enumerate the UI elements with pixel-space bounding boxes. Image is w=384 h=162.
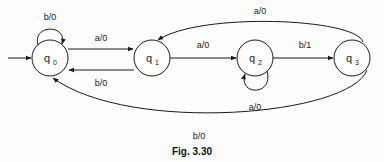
state-subscript-q2: 2 <box>258 59 262 66</box>
state-subscript-q0: 0 <box>53 59 57 66</box>
transition-q3-q1[interactable]: a/0 <box>158 6 363 42</box>
state-subscript-q1: 1 <box>155 59 159 66</box>
transition-q2-q2[interactable]: a/0 <box>244 71 268 112</box>
state-node-q3[interactable]: q 3 <box>334 40 370 76</box>
transition-label-q1-q0: b/0 <box>95 78 108 88</box>
state-label-q2: q <box>249 52 255 64</box>
state-label-q3: q <box>346 52 352 64</box>
state-label-q1: q <box>146 52 152 64</box>
figure-page: b/0 a/0 b/0 a/0 a/0 b/1 a/ <box>0 0 384 162</box>
state-node-q1[interactable]: q 1 <box>134 40 170 76</box>
state-subscript-q3: 3 <box>355 59 359 66</box>
transition-q1-q2[interactable]: a/0 <box>170 40 236 58</box>
transition-label-q3-q1: a/0 <box>254 6 267 16</box>
transition-q0-q1[interactable]: a/0 <box>68 33 133 49</box>
figure-caption: Fig. 3.30 <box>172 146 212 157</box>
transition-label-q2-q3: b/1 <box>299 40 312 50</box>
state-diagram: b/0 a/0 b/0 a/0 a/0 b/1 a/ <box>0 0 384 162</box>
transition-label-q3-q0: b/0 <box>193 131 206 141</box>
transition-label-q1-q2: a/0 <box>197 40 210 50</box>
state-node-q0[interactable]: q 0 <box>32 40 68 76</box>
transition-q1-q0[interactable]: b/0 <box>69 70 134 88</box>
transition-label-q0-q0: b/0 <box>44 12 57 22</box>
state-node-q2[interactable]: q 2 <box>237 40 273 76</box>
state-label-q0: q <box>44 52 50 64</box>
transition-q2-q3[interactable]: b/1 <box>273 40 333 58</box>
transition-label-q0-q1: a/0 <box>95 33 108 43</box>
